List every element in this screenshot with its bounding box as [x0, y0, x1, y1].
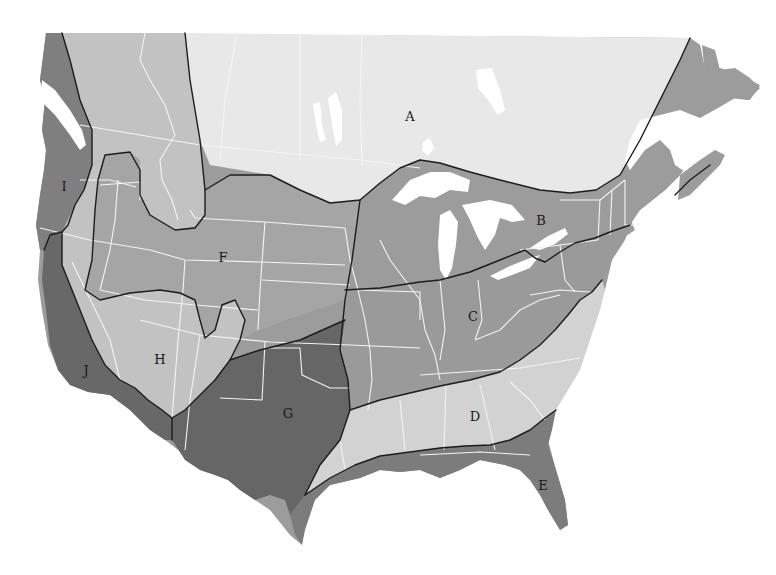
- region-label-b: B: [536, 213, 546, 228]
- region-label-a: A: [404, 109, 415, 124]
- newfoundland: [702, 45, 760, 105]
- region-label-j: J: [81, 363, 88, 378]
- region-label-c: C: [468, 309, 478, 324]
- region-label-e: E: [538, 478, 548, 493]
- region-label-f: F: [218, 250, 227, 265]
- region-label-d: D: [470, 409, 480, 424]
- zone-map: A B C D E F G H I J: [0, 0, 776, 575]
- region-label-i: I: [61, 179, 66, 194]
- region-label-g: G: [283, 406, 293, 421]
- region-label-h: H: [154, 352, 165, 367]
